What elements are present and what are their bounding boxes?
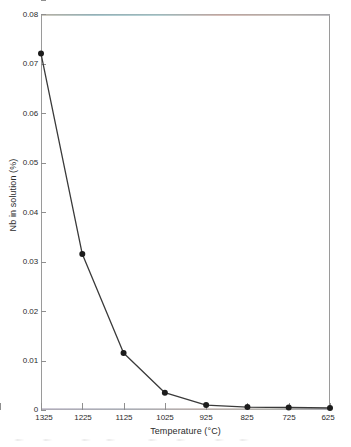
data-point-marker	[162, 390, 168, 396]
data-point-marker	[286, 405, 292, 411]
series-line-nb-in-solution	[41, 54, 330, 408]
chart-figure: 0.08 0.07 0.06 0.05 0.04 0.03 0.02 0.01 …	[0, 0, 351, 447]
data-point-marker	[327, 405, 333, 411]
data-point-marker	[79, 251, 85, 257]
data-point-marker	[244, 404, 250, 410]
series-markers	[38, 51, 333, 411]
scan-artifact-smudges	[0, 436, 351, 447]
data-series-layer	[0, 0, 351, 447]
data-point-marker	[38, 51, 44, 57]
data-point-marker	[203, 402, 209, 408]
data-point-marker	[121, 350, 127, 356]
